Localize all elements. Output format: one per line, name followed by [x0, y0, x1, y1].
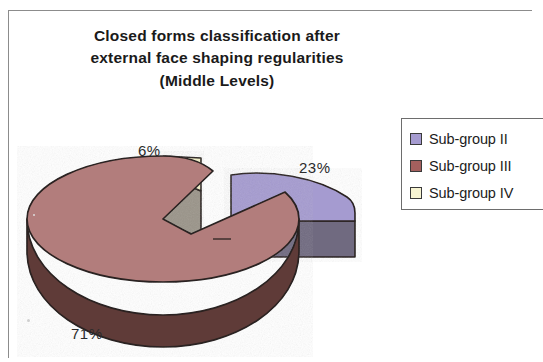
- legend-item-sub-group-III[interactable]: Sub-group III: [410, 152, 543, 179]
- scan-speck: [33, 214, 35, 216]
- data-label-sub-group-II: 23%: [299, 159, 331, 176]
- chart-title-line-1: Closed forms classification after: [17, 25, 417, 47]
- chart-frame: Closed forms classification after extern…: [8, 10, 532, 358]
- scan-speck: [27, 319, 30, 322]
- chart-title-line-3: (Middle Levels): [17, 70, 417, 92]
- legend-swatch-icon-sub-group-II: [410, 133, 422, 145]
- data-label-sub-group-IV: 6%: [138, 142, 161, 159]
- chart-title-line-2: external face shaping regularities: [17, 47, 417, 69]
- legend-item-sub-group-IV[interactable]: Sub-group IV: [410, 179, 543, 206]
- chart-legend: Sub-group II Sub-group III Sub-group IV: [401, 118, 543, 210]
- legend-label-sub-group-IV: Sub-group IV: [429, 185, 513, 201]
- legend-label-sub-group-II: Sub-group II: [429, 131, 508, 147]
- data-label-sub-group-III: 71%: [71, 325, 103, 342]
- legend-swatch-icon-sub-group-III: [410, 160, 422, 172]
- legend-item-sub-group-II[interactable]: Sub-group II: [410, 125, 543, 152]
- legend-label-sub-group-III: Sub-group III: [429, 158, 512, 174]
- legend-swatch-icon-sub-group-IV: [410, 187, 422, 199]
- chart-title: Closed forms classification after extern…: [17, 25, 417, 92]
